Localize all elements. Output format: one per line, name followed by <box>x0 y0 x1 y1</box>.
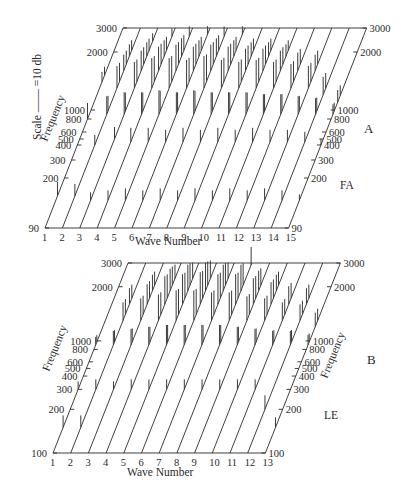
freq-tick-label-left: 200 <box>43 173 59 184</box>
wave-tick-label: 12 <box>233 232 244 243</box>
wave-tick-label: 3 <box>85 457 90 468</box>
panel-a-subject: FA <box>340 179 355 191</box>
wave-tick-label: 2 <box>59 232 64 243</box>
freq-tick-label-right: 600 <box>304 357 320 368</box>
wave-tick-label: 4 <box>94 232 100 243</box>
wave-tick-label: 2 <box>68 457 73 468</box>
freq-tick-label-right: 1000 <box>338 105 359 116</box>
wave-baseline <box>230 263 305 453</box>
freq-tick-label-right: 2000 <box>334 282 355 293</box>
freq-tick-label-left: 100 <box>31 448 47 459</box>
freq-tick-label-right: 90 <box>292 223 303 234</box>
freq-tick-label-right: 600 <box>329 127 345 138</box>
freq-tick-label-left: 600 <box>67 357 83 368</box>
freq-tick-label-right: 3000 <box>370 23 391 34</box>
panel-b-letter: B <box>367 352 376 367</box>
freq-tick-label-right: 300 <box>318 155 334 166</box>
freq-tick-label-left: 300 <box>56 384 72 395</box>
freq-tick-label-right: 100 <box>268 448 284 459</box>
wave-tick-label: 11 <box>216 232 226 243</box>
wave-tick-label: 4 <box>103 457 109 468</box>
wave-tick-label: 3 <box>77 232 82 243</box>
wave-baseline <box>106 263 181 453</box>
panel-a: 1234567891011121314159020030040050060080… <box>29 23 391 243</box>
figure: Scale —— =10 db 123456789101112131415902… <box>0 0 411 494</box>
wave-tick-label: 1 <box>50 457 55 468</box>
wave-tick-label: 12 <box>245 457 256 468</box>
wave-baseline <box>45 28 123 228</box>
freq-tick-label-left: 3000 <box>96 23 117 34</box>
panel-b-xlabel: Wave Number <box>127 466 194 478</box>
freq-tick-label-left: 90 <box>29 223 40 234</box>
freq-tick-label-left: 200 <box>49 404 65 415</box>
freq-tick-label-left: 2000 <box>87 47 108 58</box>
wave-tick-label: 13 <box>251 232 261 243</box>
wave-baseline <box>97 28 175 228</box>
wave-tick-label: 5 <box>121 457 126 468</box>
wave-baseline <box>212 263 287 453</box>
freq-tick-label-left: 600 <box>61 127 77 138</box>
freq-tick-label-left: 300 <box>50 155 66 166</box>
freq-tick-label-left: 2000 <box>92 282 113 293</box>
wave-baseline <box>124 263 199 453</box>
wave-tick-label: 1 <box>42 232 47 243</box>
freq-tick-label-right: 300 <box>294 384 310 395</box>
wave-baseline <box>53 263 128 453</box>
freq-tick-label-left: 1000 <box>64 105 85 116</box>
wave-tick-label: 5 <box>112 232 117 243</box>
freq-tick-label-right: 2000 <box>360 47 381 58</box>
freq-tick-label-right: 200 <box>311 173 327 184</box>
wave-tick-label: 6 <box>129 232 134 243</box>
freq-tick-label-right: 200 <box>286 404 302 415</box>
wave-tick-label: 10 <box>209 457 220 468</box>
panel-a-letter: A <box>364 121 374 136</box>
wave-baseline <box>80 28 158 228</box>
panel-b-subject: LE <box>324 409 338 421</box>
wave-tick-label: 11 <box>227 457 237 468</box>
panel-b: 1234567891011121310020030040050060080010… <box>31 247 364 468</box>
panel-a-xlabel: Wave Number <box>135 235 202 247</box>
freq-tick-label-left: 3000 <box>101 258 122 269</box>
freq-tick-label-right: 3000 <box>343 258 364 269</box>
wave-tick-label: 14 <box>268 232 279 243</box>
freq-tick-label-left: 1000 <box>70 336 91 347</box>
